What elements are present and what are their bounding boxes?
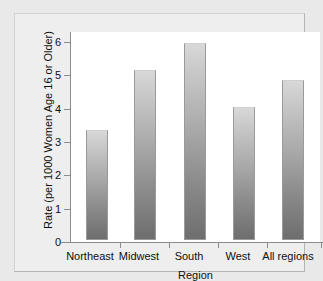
x-axis-tick [218,243,219,248]
x-axis-title: Region [71,269,320,281]
y-axis-tick [64,42,70,43]
bar-all-regions [282,80,304,240]
y-axis-tick [64,75,70,76]
y-axis-tick [64,175,70,176]
y-axis-tick-label: 0 [39,237,61,248]
y-axis-tick [64,142,70,143]
y-axis-tick [64,209,70,210]
x-axis-tick [321,243,322,248]
x-axis-category-label-south: South [161,250,217,262]
y-axis-title: Rate (per 1000 Women Age 16 or Older) [42,25,54,235]
y-axis-tick [64,242,70,243]
x-axis-category-label-all-regions: All regions [253,250,323,262]
chart-figure: 0 1 2 3 4 5 6 [0,0,318,275]
y-axis-tick [64,109,70,110]
bar-west [233,107,255,240]
bar-northeast [86,130,108,240]
bar-midwest [134,70,156,240]
bars-container [71,32,320,242]
x-axis-tick [120,243,121,248]
x-axis-tick [169,243,170,248]
chart-frame: 0 1 2 3 4 5 6 [14,13,305,272]
x-axis-line [61,242,323,243]
x-axis-tick [267,243,268,248]
bar-south [184,43,206,240]
x-axis-category-label-midwest: Midwest [109,250,169,262]
